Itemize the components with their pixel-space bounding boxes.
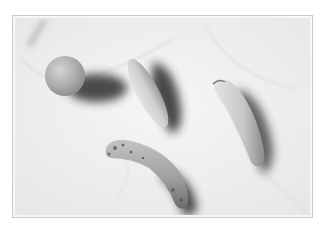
orange xyxy=(45,56,85,96)
still-life-photo xyxy=(15,18,310,215)
photo-frame xyxy=(12,15,313,218)
